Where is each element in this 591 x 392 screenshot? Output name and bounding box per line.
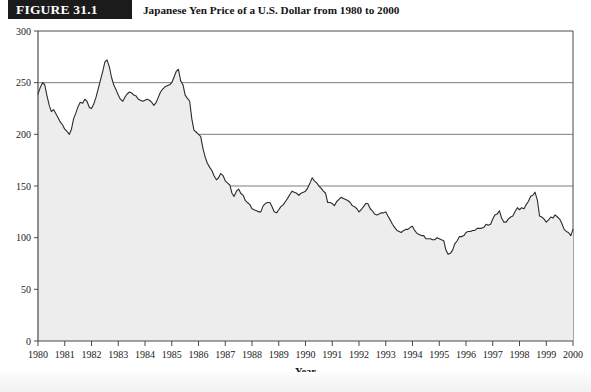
x-tick-label: 1983: [108, 349, 128, 360]
figure-header: FIGURE 31.1 Japanese Yen Price of a U.S.…: [0, 0, 591, 21]
figure-title: Japanese Yen Price of a U.S. Dollar from…: [143, 2, 399, 18]
x-tick-label: 1982: [82, 349, 102, 360]
x-tick-label: 1993: [376, 349, 396, 360]
x-tick-label: 1987: [215, 349, 235, 360]
x-tick-label: 1997: [483, 349, 503, 360]
y-tick-label: 100: [16, 232, 31, 243]
x-tick-label: 1990: [296, 349, 316, 360]
x-tick-label: 1992: [349, 349, 369, 360]
figure-label: FIGURE 31.1: [16, 1, 128, 18]
x-tick-label: 1980: [28, 349, 48, 360]
figure-panel: FIGURE 31.1 Japanese Yen Price of a U.S.…: [0, 0, 591, 392]
x-tick-label: 1996: [456, 349, 476, 360]
x-tick-label: 1991: [322, 349, 342, 360]
x-tick-label: 1994: [403, 349, 423, 360]
yen-dollar-area-chart: 050100150200250300 198019811982198319841…: [0, 21, 591, 372]
x-tick-label: 1985: [162, 349, 182, 360]
y-tick-label: 200: [16, 129, 31, 140]
x-tick-label: 1984: [135, 349, 155, 360]
x-tick-label: 1998: [510, 349, 530, 360]
area-fill: [38, 60, 573, 341]
y-axis-tick-labels: 050100150200250300: [16, 26, 38, 347]
y-tick-label: 50: [21, 284, 31, 295]
x-tick-label: 2000: [563, 349, 583, 360]
y-tick-label: 250: [16, 77, 31, 88]
x-tick-label: 1988: [242, 349, 262, 360]
y-tick-label: 300: [16, 26, 31, 37]
x-tick-label: 1995: [429, 349, 449, 360]
x-tick-label: 1986: [189, 349, 209, 360]
x-axis-tick-labels: 1980198119821983198419851986198719881989…: [28, 341, 583, 360]
y-tick-label: 0: [26, 336, 31, 347]
x-tick-label: 1989: [269, 349, 289, 360]
x-tick-label: 1981: [55, 349, 75, 360]
page-edge-shadow: [0, 372, 591, 392]
x-tick-label: 1999: [536, 349, 556, 360]
chart-area: 050100150200250300 198019811982198319841…: [0, 21, 591, 372]
y-tick-label: 150: [16, 181, 31, 192]
